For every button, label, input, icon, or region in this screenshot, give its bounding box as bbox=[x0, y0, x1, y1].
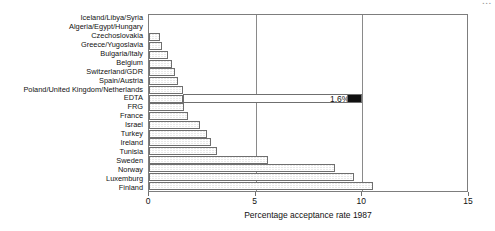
bar bbox=[149, 95, 183, 103]
category-label: Turkey bbox=[0, 130, 146, 138]
bar-row bbox=[149, 86, 467, 94]
bar bbox=[149, 147, 217, 155]
bar bbox=[149, 86, 183, 94]
bar bbox=[149, 156, 268, 164]
bar-row bbox=[149, 164, 467, 172]
bar bbox=[149, 182, 373, 190]
bar bbox=[149, 173, 354, 181]
x-tick-label: 0 bbox=[146, 196, 151, 206]
bar-row bbox=[149, 130, 467, 138]
category-label: Bulgaria/Italy bbox=[0, 50, 146, 58]
category-label: Israel bbox=[0, 121, 146, 129]
category-label: Finland bbox=[0, 184, 146, 192]
chart-figure: ... Iceland/Libya/SyriaAlgeria/Egypt/Hun… bbox=[0, 0, 495, 231]
x-tick-label: 15 bbox=[463, 196, 472, 206]
bar-row bbox=[149, 156, 467, 164]
bar-row bbox=[149, 138, 467, 146]
x-tick-label: 10 bbox=[357, 196, 366, 206]
category-label: Czechoslovakia bbox=[0, 32, 146, 40]
bar bbox=[149, 103, 184, 111]
edta-callout-marker bbox=[347, 95, 361, 102]
bar bbox=[149, 121, 200, 129]
category-label: Iceland/Libya/Syria bbox=[0, 14, 146, 22]
category-label: Poland/United Kingdom/Netherlands bbox=[0, 86, 146, 94]
page-corner-artifact: ... bbox=[482, 0, 492, 6]
bar-row bbox=[149, 147, 467, 155]
x-axis-tick-labels: 051015 bbox=[0, 196, 495, 208]
bar-row bbox=[149, 182, 467, 190]
bar bbox=[149, 60, 172, 68]
bar bbox=[149, 51, 168, 59]
bar bbox=[149, 164, 335, 172]
category-label: EDTA bbox=[0, 94, 146, 102]
category-label: Ireland bbox=[0, 139, 146, 147]
edta-callout: 1.6% bbox=[183, 94, 362, 103]
category-label: Norway bbox=[0, 166, 146, 174]
bar-row bbox=[149, 103, 467, 111]
bar-row bbox=[149, 77, 467, 85]
category-label: Spain/Austria bbox=[0, 77, 146, 85]
bar-row bbox=[149, 121, 467, 129]
bar bbox=[149, 33, 160, 41]
bar-row bbox=[149, 60, 467, 68]
bar bbox=[149, 77, 178, 85]
x-tick-label: 5 bbox=[252, 196, 257, 206]
category-label: Belgium bbox=[0, 59, 146, 67]
bar-row bbox=[149, 173, 467, 181]
x-axis-title: Percentage acceptance rate 1987 bbox=[148, 210, 468, 220]
category-label: Luxemburg bbox=[0, 175, 146, 183]
bar-row bbox=[149, 33, 467, 41]
bar bbox=[149, 112, 188, 120]
bar bbox=[149, 130, 207, 138]
category-label: Tunisia bbox=[0, 148, 146, 156]
category-label: Greece/Yugoslavia bbox=[0, 41, 146, 49]
bar-row bbox=[149, 16, 467, 24]
bar-row bbox=[149, 51, 467, 59]
category-label: Sweden bbox=[0, 157, 146, 165]
bar bbox=[149, 42, 162, 50]
category-label: Algeria/Egypt/Hungary bbox=[0, 23, 146, 31]
bar-row bbox=[149, 112, 467, 120]
bar-series: 1.6% bbox=[149, 15, 467, 191]
plot-area: 1.6% bbox=[148, 14, 468, 192]
category-label: Switzerland/GDR bbox=[0, 68, 146, 76]
bar bbox=[149, 138, 211, 146]
category-label: FRG bbox=[0, 103, 146, 111]
bar bbox=[149, 68, 175, 76]
category-axis-labels: Iceland/Libya/SyriaAlgeria/Egypt/Hungary… bbox=[0, 14, 146, 192]
category-label: France bbox=[0, 112, 146, 120]
bar-row bbox=[149, 42, 467, 50]
bar-row bbox=[149, 68, 467, 76]
bar-row: 1.6% bbox=[149, 95, 467, 103]
bar-row bbox=[149, 25, 467, 33]
